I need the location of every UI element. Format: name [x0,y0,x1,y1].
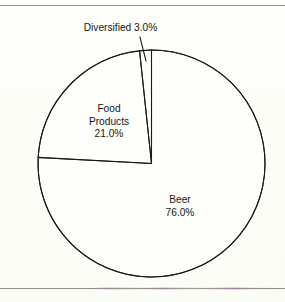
chart-page: Diversified 3.0% Food Products 21.0% Bee… [0,0,285,302]
label-food-products-line1: Food [97,103,121,114]
label-beer-line1: Beer [169,194,191,205]
bottom-horizontal-rule [0,288,285,289]
label-food-products-line2: Products [89,116,129,127]
pie-chart: Diversified 3.0% Food Products 21.0% Bee… [0,0,285,302]
label-diversified: Diversified 3.0% [84,22,158,33]
label-beer-value: 76.0% [166,207,195,218]
label-food-products-value: 21.0% [95,128,124,139]
